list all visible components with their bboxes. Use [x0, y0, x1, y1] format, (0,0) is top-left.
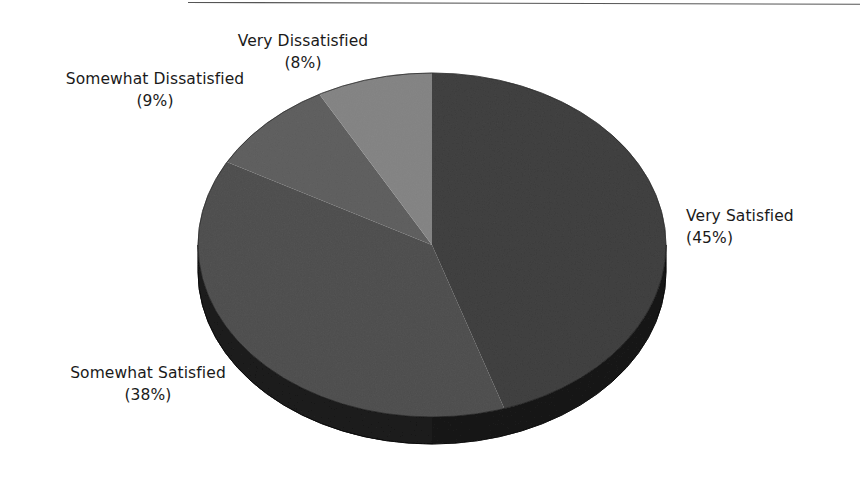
pie-label-somewhat-satisfied: Somewhat Satisfied (38%) — [48, 362, 248, 406]
pie-label-very-satisfied: Very Satisfied (45%) — [686, 205, 794, 249]
pie-label-very-dissatisfied-name: Very Dissatisfied — [238, 32, 369, 50]
pie-label-somewhat-dissatisfied-name: Somewhat Dissatisfied — [66, 70, 245, 88]
pie-label-very-satisfied-percent: (45%) — [686, 227, 794, 249]
pie-label-somewhat-satisfied-percent: (38%) — [48, 384, 248, 406]
pie-label-somewhat-dissatisfied: Somewhat Dissatisfied (9%) — [46, 68, 264, 112]
chart-page: Very Dissatisfied (8%) Somewhat Dissatis… — [0, 0, 860, 480]
pie-label-very-satisfied-name: Very Satisfied — [686, 207, 794, 225]
pie-label-somewhat-satisfied-name: Somewhat Satisfied — [70, 364, 226, 382]
pie-label-somewhat-dissatisfied-percent: (9%) — [46, 90, 264, 112]
